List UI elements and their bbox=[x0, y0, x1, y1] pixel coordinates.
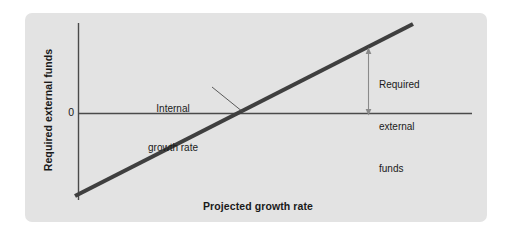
y-axis-title: Required external funds bbox=[42, 40, 54, 180]
internal-growth-rate-leader-line bbox=[212, 87, 243, 112]
internal-growth-rate-line-2: growth rate bbox=[133, 141, 213, 154]
x-axis-title: Projected growth rate bbox=[168, 200, 348, 212]
y-axis-zero-tick-label: 0 bbox=[60, 106, 74, 118]
required-external-funds-annotation: Required external funds bbox=[379, 50, 463, 204]
internal-growth-rate-line-1: Internal bbox=[133, 102, 213, 115]
required-external-funds-line-1: Required bbox=[379, 78, 463, 92]
required-external-funds-line-2: external bbox=[379, 120, 463, 134]
figure-container: Required external funds Projected growth… bbox=[0, 0, 513, 236]
data-line bbox=[75, 24, 413, 196]
required-external-funds-line-3: funds bbox=[379, 162, 463, 176]
required-external-funds-arrow bbox=[366, 48, 372, 116]
internal-growth-rate-annotation: Internal growth rate bbox=[133, 76, 213, 180]
